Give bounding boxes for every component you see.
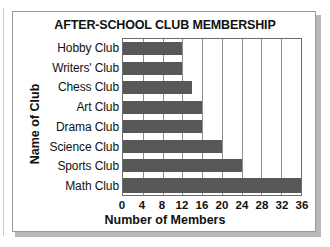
x-axis-tick-label: 4 — [139, 199, 145, 211]
bar — [123, 120, 202, 133]
bar-row — [123, 78, 301, 98]
bar — [123, 178, 301, 193]
y-axis-category-label: Math Club — [31, 176, 121, 196]
bar — [123, 140, 222, 153]
bar-row — [123, 156, 301, 176]
y-axis-category-label: Hobby Club — [31, 38, 121, 58]
x-axis-tick-label: 32 — [276, 199, 289, 211]
x-axis-tick-label: 8 — [159, 199, 165, 211]
x-axis-tick-label: 28 — [256, 199, 269, 211]
bar-row — [123, 117, 301, 137]
x-axis-tick-label: 0 — [119, 199, 125, 211]
bar-row — [123, 59, 301, 79]
chart-title: AFTER-SCHOOL CLUB MEMBERSHIP — [13, 18, 317, 32]
y-axis-category-label: Chess Club — [31, 78, 121, 98]
bar-row — [123, 39, 301, 59]
x-axis-tick-label: 16 — [196, 199, 209, 211]
bar — [123, 42, 182, 55]
bar — [123, 159, 242, 172]
x-axis-title: Number of Members — [13, 213, 317, 227]
bar — [123, 81, 192, 94]
x-axis-tick-label: 20 — [216, 199, 229, 211]
x-axis-tick-labels: 04812162024283236 — [122, 199, 302, 213]
y-axis-category-labels: Hobby ClubWriters' ClubChess ClubArt Clu… — [31, 38, 121, 196]
chart-figure: AFTER-SCHOOL CLUB MEMBERSHIP Name of Clu… — [0, 0, 330, 247]
y-axis-category-label: Drama Club — [31, 117, 121, 137]
y-axis-category-label: Science Club — [31, 137, 121, 157]
x-axis-tick-label: 12 — [176, 199, 189, 211]
bar-row — [123, 137, 301, 157]
x-axis-tick-label: 24 — [236, 199, 249, 211]
y-axis-category-label: Writers' Club — [31, 58, 121, 78]
bar — [123, 101, 202, 114]
bar-series — [123, 39, 301, 195]
y-axis-category-label: Sports Club — [31, 157, 121, 177]
plot-area — [122, 38, 302, 196]
y-axis-category-label: Art Club — [31, 97, 121, 117]
bar — [123, 62, 182, 75]
chart-card: AFTER-SCHOOL CLUB MEMBERSHIP Name of Clu… — [12, 11, 316, 232]
x-axis-tick-label: 36 — [296, 199, 309, 211]
page-edge-rule — [3, 8, 4, 236]
bar-row — [123, 176, 301, 196]
bar-row — [123, 98, 301, 118]
